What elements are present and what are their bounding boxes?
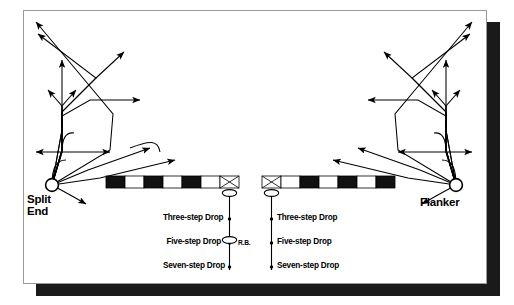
play-diagram: Split End Flanker Three-step Drop Five-s… — [0, 0, 514, 305]
split-end-label-line1: Split — [27, 193, 51, 205]
split-end-label: Split End — [27, 193, 51, 217]
split-end-label-line2: End — [27, 205, 48, 217]
flanker-label-line1: Flanker — [420, 196, 460, 208]
drop-label-left-three-step: Three-step Drop — [163, 214, 221, 223]
drop-label-left-five-step: Five-step Drop — [163, 238, 221, 247]
flanker-label: Flanker — [420, 196, 460, 208]
drop-label-left-seven-step: Seven-step Drop — [163, 262, 221, 271]
drop-label-right-five-step: Five-step Drop — [277, 238, 332, 247]
running-back-label: R.B. — [238, 240, 250, 247]
drop-label-right-seven-step: Seven-step Drop — [277, 262, 339, 271]
drop-label-right-three-step: Three-step Drop — [277, 214, 337, 223]
diagram-panel — [23, 10, 487, 284]
